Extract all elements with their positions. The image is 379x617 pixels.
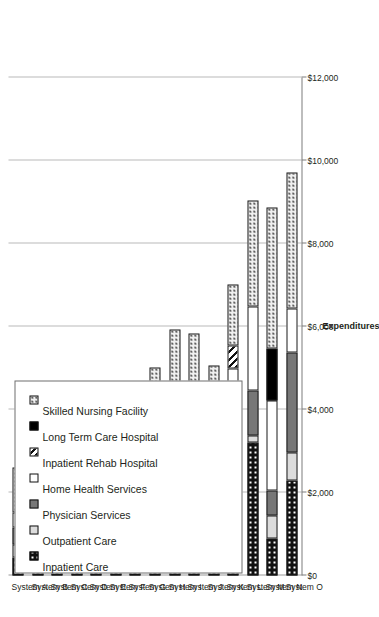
legend-swatch xyxy=(29,551,38,560)
bar-stack[interactable] xyxy=(286,172,297,575)
axis-tick-label: $12,000 xyxy=(307,72,338,82)
bar-segment[interactable] xyxy=(227,284,238,345)
bar-segment[interactable] xyxy=(227,345,238,368)
bar-segment[interactable] xyxy=(286,452,297,480)
bar-segment[interactable] xyxy=(266,515,277,538)
chart-legend: Inpatient CareOutpatient CarePhysician S… xyxy=(14,380,242,573)
legend-swatch xyxy=(29,395,38,404)
bar-segment[interactable] xyxy=(247,306,258,390)
bar-segment[interactable] xyxy=(266,348,277,399)
category-label: System O xyxy=(285,581,322,591)
legend-label: Skilled Nursing Facility xyxy=(42,404,148,416)
bar-segment[interactable] xyxy=(247,435,258,442)
gridline xyxy=(8,159,301,160)
value-axis-title: Expenditures xyxy=(322,320,379,330)
axis-tick-label: $10,000 xyxy=(307,155,338,165)
legend-label: Home Health Services xyxy=(42,482,146,494)
legend-label: Outpatient Care xyxy=(42,534,116,546)
bar-segment[interactable] xyxy=(247,390,258,435)
legend-label: Physician Services xyxy=(42,508,130,520)
legend-swatch xyxy=(29,473,38,482)
legend-label: Long Term Care Hospital xyxy=(42,430,158,442)
axis-tick-label: $8,000 xyxy=(307,238,333,248)
bar-segment[interactable] xyxy=(286,480,297,575)
axis-tick-label: $2,000 xyxy=(307,487,333,497)
bar-stack[interactable] xyxy=(266,207,277,575)
bar-segment[interactable] xyxy=(247,442,258,575)
legend-label: Inpatient Care xyxy=(42,560,108,572)
bar-segment[interactable] xyxy=(247,200,258,306)
bar-segment[interactable] xyxy=(286,172,297,308)
legend-label: Inpatient Rehab Hospital xyxy=(42,456,157,468)
bar-segment[interactable] xyxy=(266,538,277,575)
legend-swatch xyxy=(29,447,38,456)
legend-swatch xyxy=(29,525,38,534)
legend-swatch xyxy=(29,421,38,430)
axis-tick-label: $4,000 xyxy=(307,404,333,414)
bar-segment[interactable] xyxy=(286,308,297,352)
bar-segment[interactable] xyxy=(266,490,277,516)
axis-tick-label: $0 xyxy=(307,570,316,580)
bar-segment[interactable] xyxy=(286,352,297,452)
bar-segment[interactable] xyxy=(266,207,277,349)
bar-segment[interactable] xyxy=(266,400,277,490)
legend-swatch xyxy=(29,499,38,508)
bar-stack[interactable] xyxy=(247,200,258,575)
gridline xyxy=(8,76,301,77)
